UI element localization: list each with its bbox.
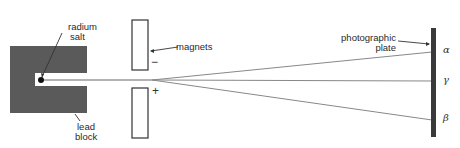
- minus-sign: −: [151, 55, 158, 69]
- magnets-leader: [151, 47, 178, 51]
- beta-ray: [152, 80, 432, 120]
- photographic-plate-label: photographic plate: [340, 33, 396, 53]
- lead-block-leader: [75, 114, 80, 121]
- magnet-top: [132, 20, 148, 70]
- beta-label: β: [443, 112, 449, 123]
- gamma-ray: [152, 80, 432, 81]
- plate-arrowhead: [426, 42, 430, 46]
- plate-leader: [398, 41, 429, 44]
- gamma-label: γ: [443, 74, 449, 85]
- plus-sign: +: [152, 84, 159, 98]
- magnets-label: magnets: [176, 42, 212, 52]
- radium-salt-label: radium salt: [68, 22, 97, 42]
- alpha-label: α: [443, 44, 450, 55]
- radium-salt-dot: [38, 77, 44, 83]
- alpha-ray: [152, 52, 432, 80]
- magnets-arrowhead: [150, 49, 154, 53]
- lead-block-label: lead block: [75, 122, 97, 142]
- photographic-plate: [431, 28, 436, 137]
- magnet-bottom: [132, 88, 148, 138]
